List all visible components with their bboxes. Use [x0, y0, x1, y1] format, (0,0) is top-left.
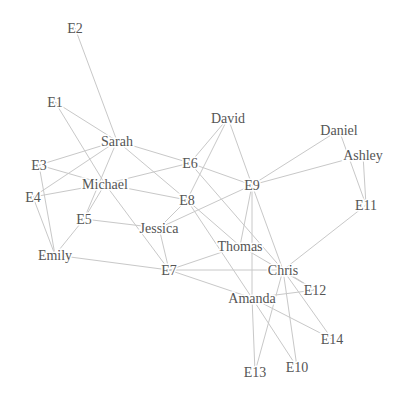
- edge-e9-daniel: [252, 130, 339, 185]
- node-label: Emily: [38, 248, 72, 263]
- node-ashley: AshleyAshley: [343, 148, 383, 163]
- edge-e11-chris: [283, 205, 366, 270]
- node-label: Chris: [268, 263, 298, 278]
- edge-chris-e14: [283, 270, 332, 339]
- node-label: E9: [244, 178, 260, 193]
- node-e11: E11E11: [355, 198, 377, 213]
- edge-e9-chris: [252, 185, 283, 270]
- node-label: E3: [31, 158, 47, 173]
- node-e2: E2E2: [67, 21, 83, 36]
- node-label: E2: [67, 21, 83, 36]
- node-e9: E9E9: [244, 178, 260, 193]
- node-amanda: AmandaAmanda: [228, 291, 276, 306]
- edge-e2-sarah: [75, 28, 117, 141]
- node-label: Ashley: [343, 148, 383, 163]
- node-label: E12: [304, 283, 327, 298]
- node-label: E4: [25, 190, 41, 205]
- node-thomas: ThomasThomas: [217, 239, 262, 254]
- node-label: Amanda: [228, 291, 276, 306]
- node-label: Thomas: [217, 239, 262, 254]
- node-label: E8: [179, 193, 195, 208]
- node-label: Sarah: [101, 134, 133, 149]
- node-e1: E1E1: [47, 95, 63, 110]
- node-label: Jessica: [140, 221, 180, 236]
- node-jessica: JessicaJessica: [140, 221, 180, 236]
- node-e10: E10E10: [286, 360, 309, 375]
- node-david: DavidDavid: [211, 111, 245, 126]
- edge-e4-emily: [33, 197, 55, 255]
- node-e7: E7E7: [161, 263, 177, 278]
- node-label: Daniel: [320, 123, 357, 138]
- edge-chris-e10: [283, 270, 297, 367]
- node-layer: E2E2E1E1SarahSarahE3E3MichaelMichaelE4E4…: [25, 21, 383, 380]
- node-e12: E12E12: [304, 283, 327, 298]
- edge-layer: [33, 28, 366, 372]
- node-sarah: SarahSarah: [101, 134, 133, 149]
- node-e6: E6E6: [182, 156, 198, 171]
- edge-e9-thomas: [240, 185, 252, 246]
- node-chris: ChrisChris: [268, 263, 298, 278]
- node-emily: EmilyEmily: [38, 248, 72, 263]
- node-e5: E5E5: [76, 212, 92, 227]
- node-label: E6: [182, 156, 198, 171]
- node-e3: E3E3: [31, 158, 47, 173]
- node-label: E5: [76, 212, 92, 227]
- node-michael: MichaelMichael: [82, 177, 128, 192]
- node-e8: E8E8: [179, 193, 195, 208]
- node-e4: E4E4: [25, 190, 41, 205]
- node-label: Michael: [82, 177, 128, 192]
- node-label: E11: [355, 198, 377, 213]
- node-e13: E13E13: [244, 365, 267, 380]
- node-label: E7: [161, 263, 177, 278]
- node-label: E13: [244, 365, 267, 380]
- node-daniel: DanielDaniel: [320, 123, 357, 138]
- edge-e3-emily: [39, 165, 55, 255]
- edge-chris-e13: [255, 270, 283, 372]
- edge-daniel-e11: [339, 130, 366, 205]
- node-label: E10: [286, 360, 309, 375]
- edge-amanda-e13: [252, 298, 255, 372]
- node-label: David: [211, 111, 245, 126]
- edge-david-e9: [228, 118, 252, 185]
- node-e14: E14E14: [321, 332, 344, 347]
- network-graph: E2E2E1E1SarahSarahE3E3MichaelMichaelE4E4…: [0, 0, 405, 403]
- node-label: E14: [321, 332, 344, 347]
- node-label: E1: [47, 95, 63, 110]
